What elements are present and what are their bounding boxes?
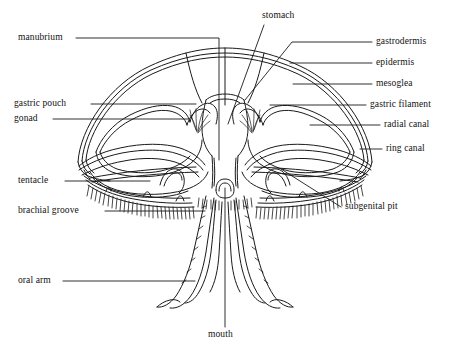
- label-gastric-pouch: gastric pouch: [14, 98, 66, 109]
- label-radial-canal: radial canal: [384, 119, 429, 130]
- label-tentacle: tentacle: [18, 175, 48, 186]
- label-stomach: stomach: [262, 10, 294, 21]
- label-gastric-filament: gastric filament: [370, 99, 431, 110]
- leader-subgenital-pit: [281, 169, 341, 207]
- jellyfish-diagram-canvas: [0, 0, 450, 350]
- label-gonad: gonad: [14, 113, 38, 124]
- oral-arm-right-inner: [228, 200, 265, 303]
- label-ring-canal: ring canal: [386, 143, 425, 154]
- label-oral-arm: oral arm: [18, 275, 51, 286]
- label-brachial-groove: brachial groove: [18, 205, 79, 216]
- label-gastrodermis: gastrodermis: [376, 36, 426, 47]
- gonad-right: [242, 172, 360, 197]
- label-mouth: mouth: [208, 329, 233, 340]
- leader-manubrium: [76, 38, 219, 160]
- tentacle-fringe-left: [87, 186, 194, 219]
- jellyfish-anatomy-figure: manubrium gastric pouch gonad tentacle b…: [0, 0, 450, 350]
- label-manubrium: manubrium: [18, 32, 63, 43]
- label-subgenital-pit: subgenital pit: [345, 201, 398, 212]
- leader-gastrodermis: [245, 42, 372, 100]
- gastric-filament-left: [190, 109, 210, 133]
- gastric-filament-right: [240, 109, 260, 133]
- label-epidermis: epidermis: [376, 57, 414, 68]
- oral-arm-left-inner: [185, 200, 222, 303]
- label-mesoglea: mesoglea: [376, 78, 413, 89]
- gonad-left: [90, 172, 208, 197]
